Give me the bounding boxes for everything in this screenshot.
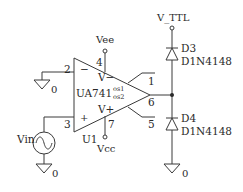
inv-sign: −	[80, 64, 89, 75]
noninv-sign: +	[80, 113, 88, 123]
junction-dot	[170, 93, 174, 97]
vcc-label: Vcc	[97, 144, 115, 154]
opamp-part-label: UA741	[76, 88, 112, 99]
d4-ref-label: D4	[181, 113, 196, 124]
vplus-label: V+	[98, 104, 114, 115]
vminus-label: V−	[98, 72, 114, 83]
os2-label: os2	[113, 94, 124, 101]
vin-label: Vin	[17, 134, 35, 145]
ground-symbol-d4	[164, 164, 180, 173]
pin5-wire	[128, 107, 155, 117]
os1-label: os1	[113, 86, 124, 93]
ground-label-pin2: 0	[51, 85, 57, 95]
pin1-number: 1	[148, 76, 155, 87]
pin2-number: 2	[64, 64, 71, 75]
ground-label-d4: 0	[182, 169, 188, 179]
vcc-terminal-icon	[103, 135, 107, 139]
pin4-number: 4	[96, 57, 103, 68]
vttl-terminal-icon	[170, 26, 174, 30]
ground-symbol-vin	[36, 164, 52, 173]
vee-terminal-icon	[103, 49, 107, 53]
d3-model-label: D1N4148	[181, 56, 232, 67]
d3-ref-label: D3	[181, 43, 196, 54]
circuit-schematic: Vee 4 − 2 V− UA741 os1 os2 V+ + 3 7 U1 V…	[0, 0, 243, 192]
ground-symbol-pin2	[34, 80, 50, 89]
opamp-ref-label: U1	[82, 134, 98, 145]
diode-d4-icon	[166, 118, 178, 130]
pin7-number: 7	[108, 119, 115, 130]
ground-label-vin: 0	[52, 169, 58, 179]
pin3-number: 3	[64, 119, 71, 130]
diode-d3-icon	[166, 48, 178, 60]
pin5-number: 5	[148, 119, 155, 130]
vee-label: Vee	[96, 35, 114, 45]
ac-source-icon	[33, 132, 55, 154]
pin6-number: 6	[148, 97, 155, 108]
vttl-label: V_TTL	[157, 13, 189, 23]
d4-model-label: D1N4148	[181, 126, 232, 137]
